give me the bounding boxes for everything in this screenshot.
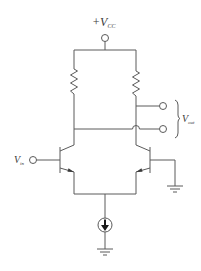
input-label: Vin xyxy=(14,154,24,166)
left-transistor-q1 xyxy=(60,145,74,194)
ground-icon xyxy=(97,249,113,255)
circuit-diagram: +VCC Vout Vin xyxy=(0,0,201,271)
arrow-down-icon xyxy=(101,225,109,231)
emitter-arrow-icon xyxy=(68,168,75,172)
output-brace xyxy=(175,100,180,138)
current-source xyxy=(98,218,112,232)
right-load-resistor xyxy=(133,50,140,145)
output-terminal-top xyxy=(160,103,167,110)
supply-label: +VCC xyxy=(92,15,116,29)
ground-icon xyxy=(167,186,183,192)
input-terminal xyxy=(30,157,37,164)
output-label: Vout xyxy=(182,113,195,125)
right-transistor-q2 xyxy=(136,145,150,194)
left-load-resistor xyxy=(71,50,78,145)
output-terminal-bottom xyxy=(160,126,167,133)
emitter-arrow-icon xyxy=(136,168,143,172)
q2-base-wire xyxy=(150,160,175,186)
output-wire-left-crossover xyxy=(74,126,160,130)
supply-terminal xyxy=(102,35,109,51)
